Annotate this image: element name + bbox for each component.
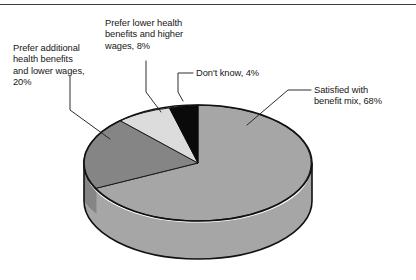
slice-label-satisfied: Satisfied with benefit mix, 68% [314, 85, 412, 108]
slice-label-dont-know: Don't know, 4% [196, 68, 300, 79]
slice-label-prefer-additional: Prefer additional health benefits and lo… [13, 43, 117, 89]
leader-line-dont-know [178, 73, 193, 101]
leader-line-prefer-lower [146, 61, 161, 112]
slice-label-prefer-lower: Prefer lower health benefits and higher … [105, 18, 213, 52]
pie-chart-figure: Prefer additional health benefits and lo… [0, 0, 416, 280]
pie-top-face [83, 105, 312, 221]
